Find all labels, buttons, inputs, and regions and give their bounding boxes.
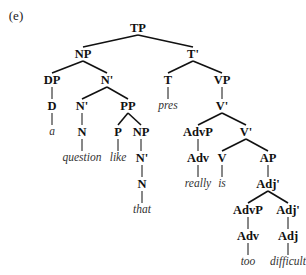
- tree-node-ap: AP: [260, 152, 277, 165]
- tree-edge: [268, 191, 288, 203]
- terminal-word-too: too: [241, 256, 256, 268]
- tree-node-dp: DP: [44, 74, 61, 87]
- tree-node-d: D: [47, 100, 56, 113]
- tree-edge: [248, 191, 268, 203]
- terminal-word-that: that: [133, 204, 151, 216]
- tree-node-v: V: [217, 152, 226, 165]
- tree-node-tbar: T': [187, 48, 199, 61]
- tree-node-adj: Adj: [278, 230, 298, 243]
- syntax-tree-figure: (e) TPNPT'DPN'TVPDN'PPpresV'aNPNPAdvPV'q…: [0, 0, 306, 275]
- tree-edge: [128, 113, 141, 125]
- tree-node-tp: TP: [130, 22, 146, 35]
- terminal-word-difficult: difficult: [270, 256, 306, 268]
- tree-edge: [52, 61, 83, 73]
- terminal-word-really: really: [185, 178, 211, 190]
- tree-node-adjbar1: Adj': [256, 178, 280, 191]
- terminal-word-a: a: [49, 126, 55, 138]
- tree-node-adv2: Adv: [237, 230, 259, 243]
- tree-edge: [83, 35, 138, 47]
- tree-node-t: T: [164, 74, 172, 87]
- tree-edge: [83, 61, 107, 73]
- tree-edge: [138, 35, 193, 47]
- tree-node-vbar1: V': [216, 100, 229, 113]
- tree-edge: [246, 139, 268, 151]
- tree-node-nbar1: N': [101, 74, 114, 87]
- tree-node-nbar2: N': [76, 100, 89, 113]
- tree-node-n2: N: [137, 178, 146, 191]
- tree-edge: [168, 61, 193, 73]
- tree-node-pp: PP: [120, 100, 135, 113]
- terminal-word-like: like: [110, 152, 127, 164]
- tree-node-np2: NP: [133, 126, 150, 139]
- tree-node-vbar2: V': [240, 126, 253, 139]
- tree-node-advp1: AdvP: [183, 126, 213, 139]
- tree-node-np1: NP: [75, 48, 92, 61]
- tree-edges: [0, 0, 306, 275]
- terminal-word-is: is: [218, 178, 226, 190]
- tree-edge: [198, 113, 222, 125]
- tree-node-n1: N: [77, 126, 86, 139]
- terminal-word-question: question: [63, 152, 102, 164]
- tree-edge: [193, 61, 222, 73]
- tree-node-vp: VP: [214, 74, 231, 87]
- tree-edge: [118, 113, 128, 125]
- tree-node-adjbar2: Adj': [276, 204, 300, 217]
- tree-node-p: P: [114, 126, 122, 139]
- tree-edge: [107, 87, 128, 99]
- tree-node-advp2: AdvP: [233, 204, 263, 217]
- terminal-word-pres: pres: [158, 100, 177, 112]
- tree-node-adv1: Adv: [187, 152, 209, 165]
- tree-edge: [222, 113, 246, 125]
- tree-node-nbar3: N': [136, 152, 149, 165]
- tree-edge: [82, 87, 107, 99]
- tree-edge: [222, 139, 246, 151]
